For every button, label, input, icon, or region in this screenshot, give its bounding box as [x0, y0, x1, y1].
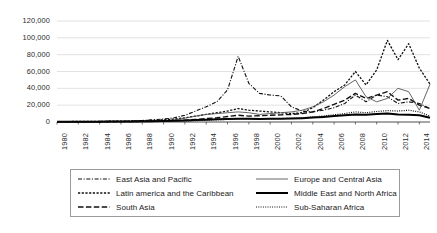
legend-line-sample: [77, 203, 111, 211]
legend-line-sample: [255, 203, 289, 211]
x-tick-label: 2012: [401, 133, 410, 150]
legend-item: Sub-Saharan Africa: [255, 200, 407, 214]
chart-legend: East Asia and PacificEurope and Central …: [70, 169, 400, 217]
legend-item: Middle East and North Africa: [255, 186, 407, 200]
y-tick-label: 120,000: [2, 16, 50, 25]
legend-label: East Asia and Pacific: [116, 175, 192, 184]
legend-label: Middle East and North Africa: [294, 189, 397, 198]
legend-line-sample: [255, 175, 289, 183]
x-tick-label: 2010: [380, 133, 389, 150]
legend-item: Europe and Central Asia: [255, 172, 407, 186]
x-tick-label: 1992: [188, 133, 197, 150]
x-tick-label: 2014: [422, 133, 431, 150]
x-tick-label: 2008: [358, 133, 367, 150]
legend-label: South Asia: [116, 203, 155, 212]
legend-item: South Asia: [77, 200, 255, 214]
x-tick-label: 1990: [167, 133, 176, 150]
y-tick-label: 0: [2, 117, 50, 126]
y-tick-label: 40,000: [2, 83, 50, 92]
legend-label: Europe and Central Asia: [294, 175, 382, 184]
line-chart: 120,000100,00080,00060,00040,00020,0000 …: [0, 0, 437, 233]
legend-label: Latin america and the Caribbean: [116, 189, 234, 198]
y-tick-label: 60,000: [2, 67, 50, 76]
x-tick-label: 2006: [337, 133, 346, 150]
x-tick-label: 1996: [231, 133, 240, 150]
x-tick-label: 1988: [145, 133, 154, 150]
x-tick-label: 2000: [273, 133, 282, 150]
legend-line-sample: [255, 189, 289, 197]
legend-label: Sub-Saharan Africa: [294, 203, 364, 212]
legend-item: Latin america and the Caribbean: [77, 186, 255, 200]
x-tick-label: 2004: [316, 133, 325, 150]
series-line: [57, 92, 430, 122]
series-line: [57, 40, 430, 121]
legend-line-sample: [77, 189, 111, 197]
legend-item: East Asia and Pacific: [77, 172, 255, 186]
x-tick-label: 2002: [294, 133, 303, 150]
x-tick-label: 1994: [209, 133, 218, 150]
x-tick-label: 1984: [103, 133, 112, 150]
x-tick-label: 1982: [81, 133, 90, 150]
x-tick-label: 1980: [60, 133, 69, 150]
x-tick-label: 1998: [252, 133, 261, 150]
y-tick-label: 100,000: [2, 33, 50, 42]
x-tick-label: 1986: [124, 133, 133, 150]
y-tick-label: 80,000: [2, 50, 50, 59]
y-tick-label: 20,000: [2, 100, 50, 109]
series-line: [57, 114, 430, 122]
legend-line-sample: [77, 175, 111, 183]
